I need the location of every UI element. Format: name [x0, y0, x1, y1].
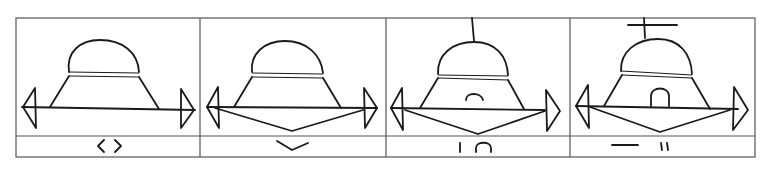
bell-body-icon — [50, 76, 159, 109]
caption-3-bar-arch-icon — [460, 143, 491, 152]
double-arrow-icon — [22, 107, 195, 110]
panel-2-figure — [207, 41, 377, 131]
diagram-canvas — [0, 0, 771, 172]
panel-grid — [16, 18, 755, 157]
lower-v-icon — [405, 110, 545, 134]
dome-icon — [69, 40, 139, 72]
dome-icon — [252, 41, 323, 73]
panel-3-figure — [391, 18, 560, 134]
bell-body-icon — [234, 77, 341, 108]
closed-arch-icon — [651, 89, 669, 107]
caption-row — [98, 140, 668, 152]
dome-icon — [621, 39, 692, 74]
panel-1-figure — [22, 40, 195, 128]
top-line-icon — [472, 18, 474, 41]
bell-body-icon — [604, 75, 710, 109]
lower-v-icon — [215, 108, 363, 131]
open-arch-icon — [466, 94, 483, 100]
double-arrow-icon — [576, 106, 738, 109]
panel-4-figure — [576, 18, 748, 132]
caption-2-v-icon — [277, 141, 308, 150]
caption-4-dash-strokes-icon — [612, 143, 668, 150]
cross-icon — [644, 18, 645, 38]
dome-icon — [438, 42, 508, 75]
double-arrow-icon — [207, 107, 377, 108]
lower-v-icon — [590, 107, 730, 132]
double-arrow-icon — [391, 108, 545, 110]
caption-1-angle-brackets-icon — [98, 140, 121, 152]
